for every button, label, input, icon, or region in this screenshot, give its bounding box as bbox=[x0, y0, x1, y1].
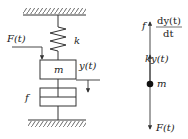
displacement-label: y(t) bbox=[78, 60, 97, 71]
mass-spring-damper-diagram: k F(t) m y(t) f f dy(t) dt ky(t) m F(t) bbox=[0, 0, 188, 139]
damping-coeff-label: f bbox=[141, 20, 148, 31]
damping-numerator: dy(t) bbox=[157, 15, 181, 26]
ceiling-ground bbox=[23, 8, 86, 15]
spring-label: k bbox=[74, 35, 80, 46]
force-arrow-icon bbox=[12, 47, 42, 59]
spring-force-label: ky(t) bbox=[145, 53, 169, 64]
damping-denominator: dt bbox=[163, 28, 173, 39]
damper-label: f bbox=[24, 92, 31, 103]
force-label: F(t) bbox=[6, 33, 26, 44]
mass-label: m bbox=[54, 64, 63, 75]
mass-point-icon bbox=[147, 81, 154, 88]
spring-icon bbox=[50, 15, 66, 60]
applied-force-label: F(t) bbox=[155, 122, 175, 133]
mass-point-label: m bbox=[157, 78, 166, 89]
floor-ground bbox=[28, 120, 86, 127]
displacement-arrow-icon bbox=[76, 80, 100, 92]
